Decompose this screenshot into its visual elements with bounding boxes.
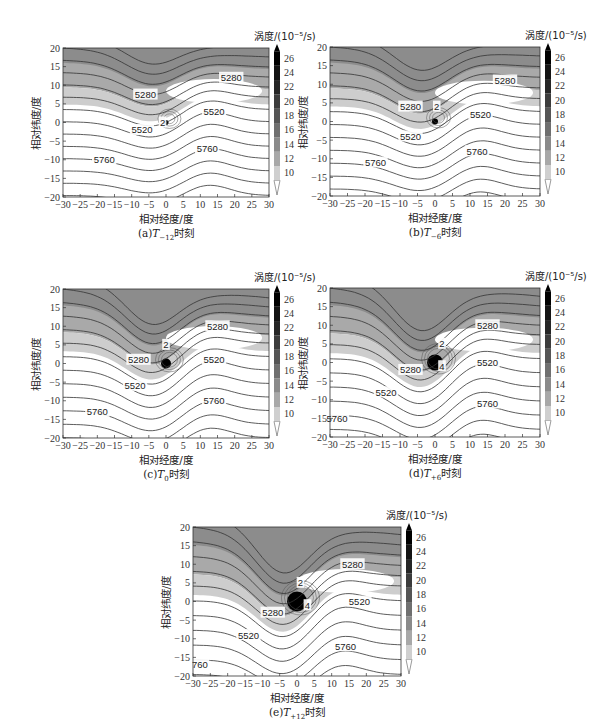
y-tick-label: 20 bbox=[180, 522, 190, 533]
contour-label: 760 bbox=[192, 659, 208, 670]
x-tick-label: 5 bbox=[312, 678, 317, 689]
x-tick-label: 30 bbox=[396, 678, 406, 689]
y-tick-label: 5 bbox=[185, 577, 190, 588]
panel-caption: (e)T+12时刻 bbox=[193, 704, 401, 721]
x-axis-label: 相对经度/度 bbox=[193, 690, 401, 705]
y-axis-label: 相对纬度/度 bbox=[158, 562, 173, 642]
x-tick-label: −25 bbox=[203, 678, 219, 689]
x-tick-label: −5 bbox=[274, 678, 285, 689]
x-tick-label: −15 bbox=[237, 678, 253, 689]
contour-label: 5520 bbox=[238, 630, 259, 641]
contour-label: 2 bbox=[298, 577, 303, 588]
y-tick-label: 0 bbox=[185, 596, 190, 607]
colorbar-tick: 22 bbox=[416, 560, 426, 571]
colorbar-title: 涡度/(10⁻⁵/s) bbox=[386, 507, 448, 522]
x-tick-label: 15 bbox=[344, 678, 354, 689]
contour-label: 5280 bbox=[262, 607, 283, 618]
contour-label: 4 bbox=[305, 600, 310, 611]
y-tick-label: −10 bbox=[174, 633, 190, 644]
x-tick-label: −10 bbox=[255, 678, 271, 689]
x-tick-label: 20 bbox=[361, 678, 371, 689]
x-tick-label: −20 bbox=[220, 678, 236, 689]
contour-label: 5280 bbox=[342, 559, 363, 570]
y-tick-label: 10 bbox=[180, 559, 190, 570]
colorbar-tick: 18 bbox=[416, 589, 426, 600]
x-tick-label: 0 bbox=[295, 678, 300, 689]
y-tick-label: −5 bbox=[179, 615, 190, 626]
panel-e-plot: 5280528055205520760576024−30−25−20−15−10… bbox=[0, 0, 603, 727]
colorbar-tick: 26 bbox=[416, 532, 426, 543]
y-tick-label: −15 bbox=[174, 652, 190, 663]
colorbar-tick: 14 bbox=[416, 618, 426, 629]
y-tick-label: −20 bbox=[174, 671, 190, 682]
colorbar-tick: 10 bbox=[416, 646, 426, 657]
colorbar-tick: 24 bbox=[416, 546, 426, 557]
contour-label: 5760 bbox=[335, 641, 356, 652]
y-tick-label: 15 bbox=[180, 540, 190, 551]
colorbar-tick: 16 bbox=[416, 603, 426, 614]
contour-label: 5520 bbox=[349, 596, 370, 607]
colorbar-tick: 12 bbox=[416, 632, 426, 643]
x-tick-label: 25 bbox=[379, 678, 389, 689]
colorbar-tick: 20 bbox=[416, 575, 426, 586]
x-tick-label: 10 bbox=[327, 678, 337, 689]
